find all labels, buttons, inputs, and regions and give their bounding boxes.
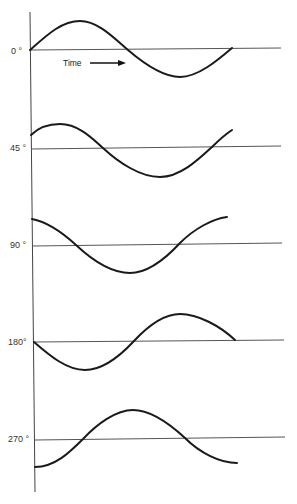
right-arrow-icon bbox=[90, 60, 126, 66]
baseline-270 bbox=[35, 437, 285, 440]
phase-label-270: 270 ° bbox=[8, 434, 30, 444]
phase-label-90: 90 ° bbox=[10, 240, 27, 250]
panel-180-degrees: 180° bbox=[8, 314, 284, 370]
time-label: Time bbox=[63, 58, 82, 68]
phase-label-45: 45 ° bbox=[10, 143, 27, 153]
phase-shift-diagram: 0 ° Time 45 ° 90 ° 180° 270 ° bbox=[0, 0, 297, 504]
panel-0-degrees: 0 ° Time bbox=[11, 21, 281, 77]
phase-label-0: 0 ° bbox=[11, 46, 23, 56]
phase-label-180: 180° bbox=[8, 337, 27, 347]
baseline-90 bbox=[32, 243, 282, 246]
panel-90-degrees: 90 ° bbox=[10, 217, 282, 273]
sine-wave-45 bbox=[31, 124, 232, 177]
panel-45-degrees: 45 ° bbox=[10, 124, 281, 177]
panel-270-degrees: 270 ° bbox=[8, 410, 285, 467]
baseline-45 bbox=[31, 146, 281, 149]
baseline-0 bbox=[30, 48, 281, 50]
baseline-180 bbox=[34, 340, 284, 342]
vertical-axis bbox=[30, 12, 35, 492]
